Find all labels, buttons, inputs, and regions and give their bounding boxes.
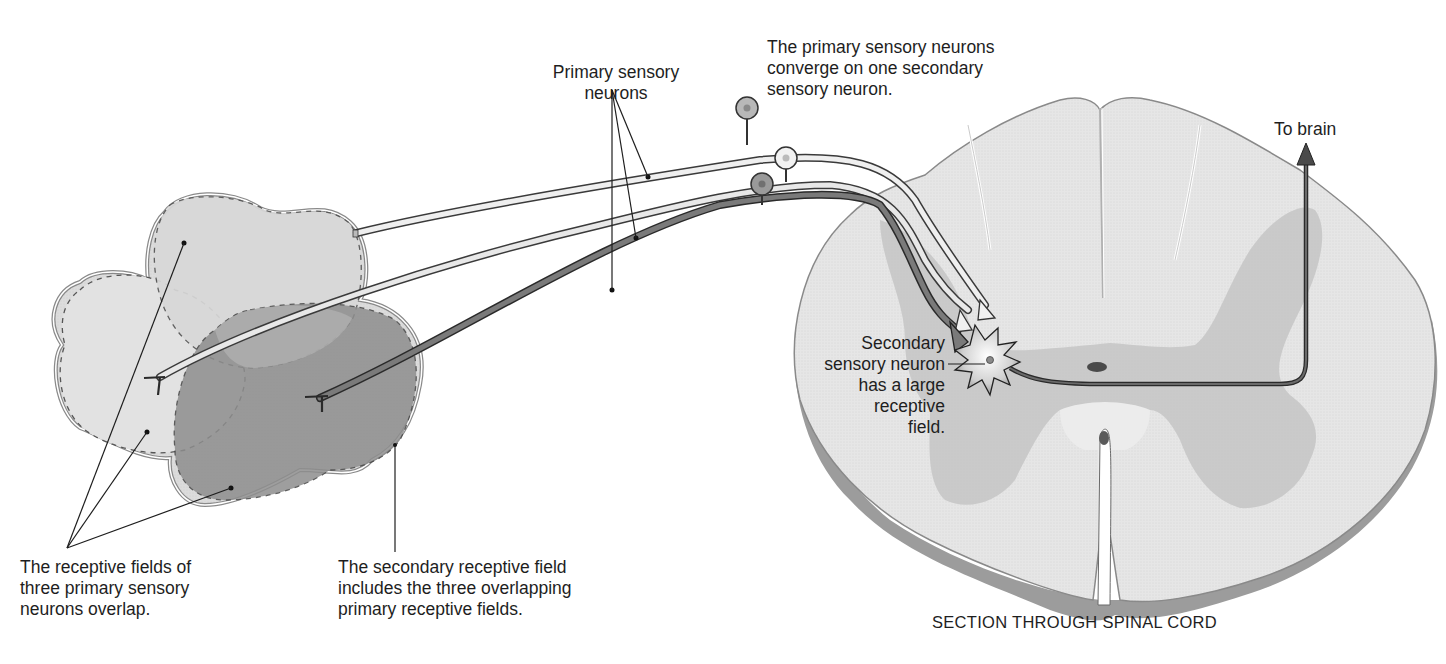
to-brain-arrow-icon: [1297, 143, 1315, 165]
label-secondary-field: The secondary receptive field includes t…: [338, 557, 572, 620]
label-primary-sensory-neurons: Primary sensory neurons: [536, 62, 696, 104]
receptive-fields: [54, 194, 422, 505]
label-primary-fields-overlap: The receptive fields of three primary se…: [20, 557, 191, 620]
label-secondary-sensory-neuron: Secondary sensory neuron has a large rec…: [790, 333, 945, 438]
label-convergence: The primary sensory neurons converge on …: [767, 37, 995, 100]
anterior-median-fissure: [1098, 429, 1111, 605]
receptive-field-diagram: [0, 0, 1446, 664]
central-canal: [1087, 362, 1107, 372]
figure-caption: SECTION THROUGH SPINAL CORD: [932, 612, 1217, 633]
label-to-brain: To brain: [1274, 119, 1336, 140]
